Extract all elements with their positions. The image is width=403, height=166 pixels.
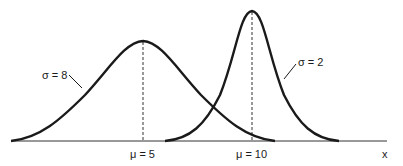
sigma-8-pointer [69, 75, 82, 88]
mean-10-label: μ = 10 [236, 149, 267, 160]
x-axis-label: x [382, 149, 388, 160]
curve-sigma-8 [11, 41, 275, 141]
curve-sigma-2 [165, 11, 339, 141]
sigma-8-label: σ = 8 [42, 70, 67, 81]
sigma-2-pointer [284, 64, 296, 79]
sigma-2-label: σ = 2 [298, 57, 323, 68]
normal-distributions-diagram: σ = 8 σ = 2 μ = 5 μ = 10 x [0, 0, 403, 166]
diagram-graphics [0, 0, 403, 166]
mean-5-label: μ = 5 [130, 149, 155, 160]
